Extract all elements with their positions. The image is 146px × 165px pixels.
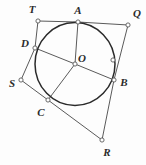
radius-O-D <box>35 48 75 64</box>
vertex-marker-Q <box>126 23 130 27</box>
segment-T-A <box>38 21 78 22</box>
vertex-marker-C <box>46 98 50 102</box>
point-label-D: D <box>21 38 29 49</box>
geometry-figure: T A Q D O S B C R <box>0 0 146 165</box>
point-label-B: B <box>120 77 127 88</box>
point-label-A: A <box>74 5 81 16</box>
vertex-marker-D <box>33 46 37 50</box>
point-label-T: T <box>29 4 36 15</box>
point-label-S: S <box>9 78 15 89</box>
vertex-marker-O <box>73 62 77 66</box>
vertex-marker-R <box>100 138 104 142</box>
radius-O-C <box>48 64 75 100</box>
radius-O-B <box>75 64 114 80</box>
vertex-marker-S <box>19 78 23 82</box>
point-label-C: C <box>37 107 44 118</box>
vertex-marker-A <box>76 20 80 24</box>
vertex-marker-T <box>36 19 40 23</box>
point-label-Q: Q <box>133 8 141 19</box>
segment-B-R <box>102 80 114 140</box>
segment-D-T <box>35 21 38 48</box>
vertex-marker-P <box>111 58 115 62</box>
vertex-marker-B <box>112 78 116 82</box>
segment-Q-B <box>114 25 128 80</box>
point-label-R: R <box>103 147 110 158</box>
point-label-O: O <box>78 53 86 64</box>
vertex-markers-layer <box>19 19 130 142</box>
segment-S-D <box>21 48 35 80</box>
